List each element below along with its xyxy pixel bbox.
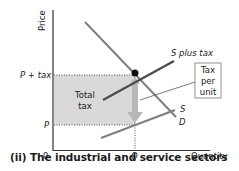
p-label: P bbox=[44, 120, 50, 130]
tax-per-unit-pointer bbox=[140, 82, 195, 100]
tax-per-unit-line1: Tax bbox=[200, 65, 215, 75]
s-plus-tax-label: S plus tax bbox=[171, 48, 214, 58]
tax-per-unit-line3: unit bbox=[200, 87, 217, 97]
tax-incidence-chart: Price P + tax P 0 Q Quantity S plus tax … bbox=[0, 0, 239, 171]
total-tax-label-line1: Total bbox=[74, 90, 95, 100]
y-axis-label: Price bbox=[37, 10, 47, 31]
total-tax-label-line2: tax bbox=[78, 101, 92, 111]
tax-per-unit-line2: per bbox=[201, 76, 216, 86]
chart-caption: (ii) The industrial and service sectors bbox=[10, 151, 227, 163]
s-label: S bbox=[180, 104, 186, 114]
total-tax-area bbox=[54, 75, 135, 125]
d-label: D bbox=[179, 117, 186, 127]
equilibrium-point bbox=[132, 70, 139, 77]
p-plus-tax-label: P + tax bbox=[20, 70, 52, 80]
